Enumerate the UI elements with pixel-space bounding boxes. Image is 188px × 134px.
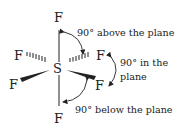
atom-s-central: S <box>53 61 62 76</box>
atom-f-bottom: F <box>54 111 63 126</box>
atom-f-left-front: F <box>9 77 18 92</box>
sf6-diagram: F S F F F F F 90° above the plane 90° in… <box>0 0 188 134</box>
label-in-plane-1: 90° in the <box>120 57 168 68</box>
bond-right-wedge <box>66 70 96 80</box>
bond-left-wedge <box>20 70 50 82</box>
bond-left-hashed <box>27 52 45 62</box>
label-in-plane-2: plane <box>120 71 147 82</box>
arrow-below-icon <box>63 80 87 102</box>
atom-f-left-back: F <box>14 48 23 63</box>
atom-f-top: F <box>54 10 63 25</box>
atom-f-right-front: F <box>95 78 104 93</box>
arrow-in-plane-icon <box>109 57 116 86</box>
label-below: 90° below the plane <box>75 104 173 115</box>
atom-f-right-back: F <box>96 48 105 63</box>
label-above: 90° above the plane <box>77 27 175 38</box>
bond-right-hashed <box>70 52 88 62</box>
